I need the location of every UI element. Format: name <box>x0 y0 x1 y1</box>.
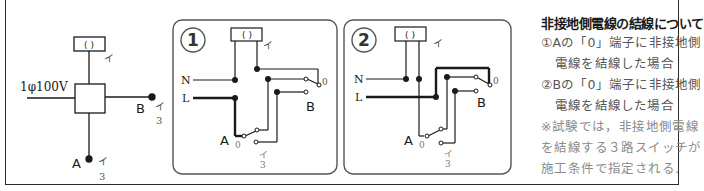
switch-b-type: 3 <box>156 115 162 126</box>
panel-1-n-label: N <box>181 74 191 87</box>
notes-title: 非接地側電線の結線について <box>541 13 681 32</box>
note-item-2-line2: 電線を結線した場合 <box>541 95 681 116</box>
note-item-1: ①Aの「0」端子に非接地側 電線を結線した場合 <box>541 32 681 74</box>
panel-1-number: 1 <box>187 30 199 50</box>
note-remark-line-1: ※試験では，非接地側電線 <box>541 116 681 137</box>
switch-a-dot <box>86 156 92 162</box>
panel-1-switch-a-type: 3 <box>260 160 266 170</box>
panel-2-number: 2 <box>358 30 370 50</box>
overview-diagram <box>27 37 155 162</box>
panel-2-lamp-label: イ <box>433 38 443 49</box>
junction-box <box>75 84 105 113</box>
panel-1-switch-a-label: イ <box>259 150 268 160</box>
panel-1-l-label: L <box>182 92 190 105</box>
switch-a-label: イ <box>98 156 108 167</box>
panel-2-switch-a-label: イ <box>444 149 453 159</box>
supply-label: 1φ100V <box>20 80 68 94</box>
notes-panel: 非接地側電線の結線について ①Aの「0」端子に非接地側 電線を結線した場合 ②B… <box>541 13 681 179</box>
note-remark-line-3: 施工条件で指定される. <box>541 158 681 179</box>
note-item-2: ②Bの「0」端子に非接地側 電線を結線した場合 <box>541 74 681 116</box>
lamp-label: イ <box>104 53 114 64</box>
panel-2-n-label: N <box>354 73 364 86</box>
panel-1-switch-a-terminal-0 <box>242 134 246 138</box>
panel-2-switch-a-terminal-0-label: 0 <box>419 140 425 150</box>
switch-a-name: A <box>72 156 81 171</box>
panel-1: 1 <box>173 20 337 174</box>
note-item-1-marker: ① <box>541 35 552 50</box>
panel-2-switch-b-name: B <box>477 95 486 110</box>
panel-2-switch-a-type: 3 <box>445 159 451 169</box>
switch-b-label: イ <box>155 101 165 112</box>
lamp-symbol: ( ) <box>84 40 94 50</box>
switch-b-name: B <box>136 101 145 116</box>
note-item-1-line1: Aの「0」端子に非接地側 <box>552 35 701 50</box>
panel-1-switch-a-name: A <box>220 133 229 148</box>
panel-2-switch-b-terminal-0-label: 0 <box>493 76 499 86</box>
switch-a-type: 3 <box>99 171 105 182</box>
switch-b-dot <box>149 94 155 100</box>
note-item-2-marker: ② <box>541 77 552 92</box>
panel-1-lamp-symbol: ( ) <box>242 30 252 40</box>
note-item-2-line1: Bの「0」端子に非接地側 <box>552 77 701 92</box>
panel-1-switch-b-terminal-0 <box>317 83 321 87</box>
panel-1-switch-b-name: B <box>306 99 315 114</box>
panel-2-switch-a-terminal-0 <box>425 134 429 138</box>
panel-1-switch-a-terminal-0-label: 0 <box>235 140 241 150</box>
panel-2: 2 <box>344 20 511 174</box>
note-item-1-line2: 電線を結線した場合 <box>541 53 681 74</box>
panel-1-lamp-label: イ <box>263 40 273 51</box>
note-remark-line-2: を結線する３路スイッチが <box>541 137 681 158</box>
panel-1-switch-b-terminal-0-label: 0 <box>322 77 328 87</box>
panel-2-switch-a-name: A <box>404 133 413 148</box>
panel-2-l-label: L <box>355 91 363 104</box>
panel-2-switch-b-terminal-0 <box>488 83 492 87</box>
panel-2-lamp-symbol: ( ) <box>405 30 415 40</box>
